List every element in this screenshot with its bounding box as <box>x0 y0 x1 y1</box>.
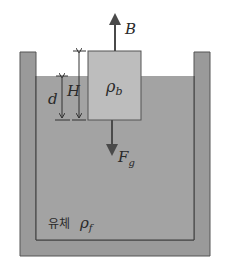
height-label: H <box>66 82 81 100</box>
depth-label: d <box>48 90 58 108</box>
fluid-label: 유체 <box>48 217 70 231</box>
buoyant-force-label: B <box>124 20 136 38</box>
buoyancy-diagram: ρb B Fg H d 유체 ρf <box>0 0 226 274</box>
